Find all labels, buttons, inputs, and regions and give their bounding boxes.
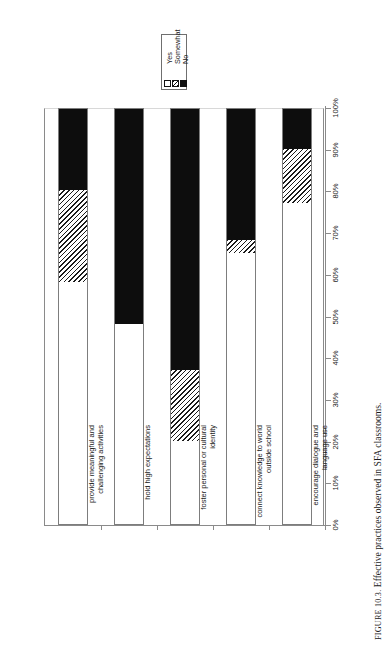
category-label: encourage dialogue and language use — [311, 425, 329, 533]
value-tick-label: 30% — [330, 383, 341, 417]
category-tick — [157, 525, 158, 530]
hatched-square-icon — [172, 80, 179, 87]
stacked-bar[interactable] — [170, 108, 200, 525]
stacked-bar[interactable] — [58, 108, 88, 525]
value-tick-label: 90% — [330, 133, 341, 167]
value-tick-label: 80% — [330, 174, 341, 208]
bar-segment-yes — [115, 324, 143, 524]
chart-legend: Yes Somewhat No — [161, 34, 187, 90]
value-tick-label: 70% — [330, 216, 341, 250]
legend-label-no: No — [180, 8, 191, 65]
stacked-bar[interactable] — [282, 108, 312, 525]
category-label: hold high expectations — [143, 425, 152, 533]
value-tick-label: 20% — [330, 425, 341, 459]
bar-segment-somewhat — [171, 370, 199, 441]
figure-caption: FIGURE 10.3. Effective practices observe… — [372, 370, 384, 640]
white-square-icon — [164, 80, 171, 87]
stacked-bar[interactable] — [226, 108, 256, 525]
bar-segment-somewhat — [283, 149, 311, 203]
value-tick-label: 0% — [330, 508, 341, 542]
category-label: provide meaningful and challenging activ… — [87, 425, 105, 533]
value-tick-label: 100% — [330, 91, 341, 125]
figure-caption-text: Effective practices observed in SFA clas… — [372, 403, 383, 588]
bar-segment-no — [171, 108, 199, 370]
value-tick-label: 40% — [330, 341, 341, 375]
bar-segment-somewhat — [59, 190, 87, 282]
value-tick-label: 50% — [330, 300, 341, 334]
black-square-icon — [180, 80, 187, 87]
figure-container: Yes Somewhat No 0%10%20%30%40%50%60%70%8… — [0, 0, 391, 650]
category-label: foster personal or cultural identity — [199, 425, 217, 533]
bar-segment-yes — [171, 441, 199, 524]
bar-segment-no — [59, 108, 87, 190]
value-tick-label: 60% — [330, 258, 341, 292]
bar-segment-no — [283, 108, 311, 149]
stacked-bar[interactable] — [114, 108, 144, 525]
bar-segment-somewhat — [227, 240, 255, 253]
bar-segment-yes — [227, 253, 255, 524]
value-tick-label: 10% — [330, 466, 341, 500]
bar-segment-yes — [283, 203, 311, 524]
bar-segment-no — [115, 108, 143, 324]
bar-segment-yes — [59, 282, 87, 524]
figure-number: FIGURE 10.3. — [374, 590, 383, 640]
category-label: connect knowledge to world outside schoo… — [255, 425, 273, 533]
bar-segment-no — [227, 108, 255, 240]
